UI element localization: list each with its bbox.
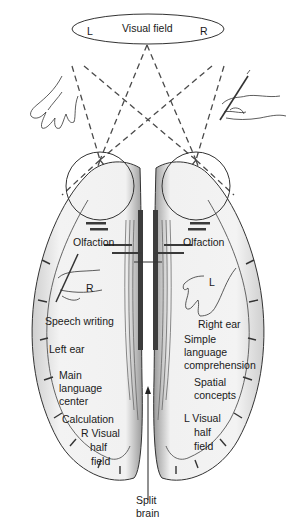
simple-language-label-3: comprehension <box>184 359 256 371</box>
r-visual-half-field-label-1: R Visual <box>81 427 120 439</box>
spatial-concepts-label-1: Spatial <box>194 376 226 388</box>
left-hand-marker: R <box>86 282 94 294</box>
spatial-concepts-label-2: concepts <box>194 389 236 401</box>
main-language-label-1: Main <box>59 369 82 381</box>
left-olfaction-label: Olfaction <box>73 236 114 248</box>
right-hand-marker: L <box>209 276 215 288</box>
left-ear-label: Left ear <box>49 343 85 355</box>
simple-language-label-1: Simple <box>184 333 216 345</box>
r-visual-half-field-label-3: field <box>91 455 110 467</box>
left-medial-shadow <box>138 210 143 350</box>
main-language-label-3: center <box>59 395 88 407</box>
visual-field-left-marker: L <box>87 25 93 37</box>
visual-field-right-marker: R <box>200 25 208 37</box>
r-visual-half-field-label-2: half <box>90 441 107 453</box>
left-hand-drawing <box>31 76 78 128</box>
main-language-label-2: language <box>59 382 102 394</box>
l-visual-half-field-label-2: half <box>194 426 211 438</box>
split-brain-diagram: Visual field L R Olfaction Olfaction R L… <box>0 0 296 528</box>
split-brain-arrow <box>145 386 151 500</box>
l-visual-half-field-label-3: field <box>194 440 213 452</box>
calculation-label: Calculation <box>62 413 114 425</box>
right-hand-writing-drawing <box>220 70 286 120</box>
right-medial-shadow <box>153 210 158 350</box>
simple-language-label-2: language <box>184 346 227 358</box>
visual-field-label: Visual field <box>122 22 173 34</box>
l-visual-half-field-label-1: L Visual <box>184 412 221 424</box>
right-ear-label: Right ear <box>198 318 241 330</box>
speech-writing-label: Speech writing <box>45 315 114 327</box>
right-olfaction-label: Olfaction <box>183 236 224 248</box>
split-brain-label-1: Split <box>136 494 156 506</box>
diagram-artwork <box>0 0 296 528</box>
split-brain-label-2: brain <box>136 507 159 519</box>
